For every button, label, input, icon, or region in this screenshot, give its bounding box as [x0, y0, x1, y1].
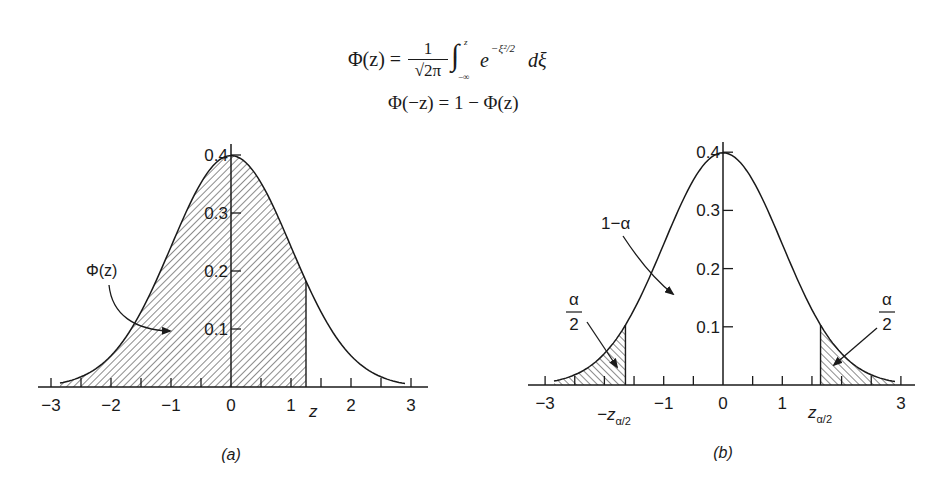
x-tick-label: −1 [161, 396, 180, 415]
chart-b-neg-z-text: −z [597, 405, 616, 424]
chart-a-phi-label: Φ(z) [86, 262, 117, 279]
figure: −3−2−10123 0.10.20.30.4 Φ(z) z (a) −3−10… [0, 0, 946, 493]
x-tick-label: 3 [896, 394, 905, 413]
x-tick-label: 1 [778, 394, 787, 413]
chart-a: −3−2−10123 0.10.20.30.4 Φ(z) z (a) [38, 144, 428, 463]
x-tick-label: −3 [535, 394, 554, 413]
chart-b-right-tail-arrow [834, 328, 877, 365]
chart-b-pos-z-subscript: α/2 [817, 413, 833, 425]
chart-b-pos-z-text: z [807, 403, 817, 422]
chart-b-x-tick-labels: −3−1013 [535, 394, 905, 413]
chart-a-z-label: z [308, 402, 318, 421]
chart-b-left-tail-area [554, 325, 626, 385]
y-tick-label: 0.4 [204, 146, 228, 165]
x-tick-label: −1 [654, 394, 673, 413]
y-tick-label: 0.1 [204, 320, 228, 339]
chart-b-density-curve [554, 153, 895, 382]
chart-b-center-arrow [623, 236, 673, 294]
y-tick-label: 0.3 [696, 201, 720, 220]
y-tick-label: 0.4 [696, 143, 720, 162]
y-tick-label: 0.2 [204, 262, 228, 281]
x-tick-label: 0 [226, 396, 235, 415]
x-tick-label: 0 [718, 394, 727, 413]
chart-a-caption: (a) [221, 446, 241, 463]
chart-b-right-tail-area [821, 325, 896, 385]
x-tick-label: 3 [406, 396, 415, 415]
y-tick-label: 0.2 [696, 260, 720, 279]
chart-b-pos-z-label: zα/2 [807, 403, 832, 425]
chart-b-left-two: 2 [569, 315, 578, 334]
y-tick-label: 0.1 [696, 318, 720, 337]
chart-b: −3−1013 0.10.20.30.4 1−α α 2 α 2 −zα/2 z… [528, 142, 915, 461]
chart-b-right-two: 2 [882, 315, 891, 334]
x-tick-label: −2 [101, 396, 120, 415]
x-tick-label: −3 [41, 396, 60, 415]
x-tick-label: 1 [286, 396, 295, 415]
chart-b-y-tick-labels: 0.10.20.30.4 [696, 143, 720, 337]
x-tick-label: 2 [346, 396, 355, 415]
chart-b-right-alpha: α [882, 290, 892, 309]
y-tick-label: 0.3 [204, 204, 228, 223]
chart-b-neg-z-label: −zα/2 [597, 405, 631, 427]
chart-b-caption: (b) [713, 444, 733, 461]
chart-a-x-tick-labels: −3−2−10123 [41, 396, 415, 415]
chart-b-y-ticks [723, 152, 733, 327]
chart-b-left-alpha: α [569, 290, 579, 309]
chart-b-neg-z-subscript: α/2 [615, 415, 631, 427]
chart-b-one-minus-alpha-label: 1−α [601, 214, 630, 233]
